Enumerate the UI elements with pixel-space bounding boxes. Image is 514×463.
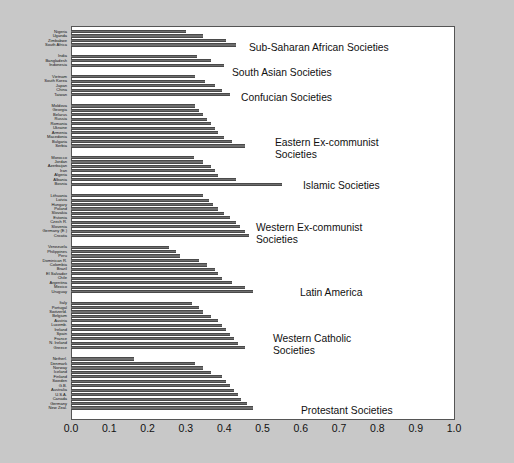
bar [71, 398, 241, 401]
bar [71, 225, 240, 228]
bar [71, 380, 226, 383]
country-labels-layer: NigeriaUgandaZimbabweSouth AfricaIndiaBa… [0, 28, 69, 418]
x-axis-tick-label: 0.5 [255, 422, 270, 434]
bar [71, 30, 186, 33]
bar-row [71, 290, 454, 294]
x-axis-tick-label: 0.7 [332, 422, 347, 434]
bar [71, 371, 211, 374]
bar [71, 290, 253, 293]
bar [71, 118, 207, 121]
country-label: Taiwan [54, 93, 67, 97]
bar [71, 357, 134, 360]
bar [71, 221, 236, 224]
bar [71, 277, 222, 280]
bar [71, 306, 199, 309]
bar [71, 104, 195, 107]
bar [71, 250, 176, 253]
bar [71, 43, 236, 46]
country-label: New Zeal. [49, 406, 67, 410]
group-annotation: Confucian Societies [241, 92, 332, 104]
bar [71, 286, 245, 289]
bar [71, 254, 180, 257]
bar [71, 165, 211, 168]
bar [71, 160, 203, 163]
country-label: Indonesia [49, 63, 67, 67]
bar [71, 93, 230, 96]
bar [71, 234, 249, 237]
country-label: Greece [54, 346, 67, 350]
bar [71, 199, 209, 202]
bar [71, 207, 218, 210]
country-label: Croatia [54, 234, 67, 238]
x-axis-tick-label: 0.8 [370, 422, 385, 434]
bar [71, 183, 282, 186]
bar [71, 346, 245, 349]
bar [71, 178, 236, 181]
bar [71, 259, 199, 262]
bar [71, 156, 194, 159]
bar [71, 131, 218, 134]
x-axis-tick-label: 0.2 [140, 422, 155, 434]
bar-row [71, 183, 454, 187]
bar [71, 122, 211, 125]
bar-row [71, 406, 454, 410]
bar [71, 310, 203, 313]
bar [71, 375, 222, 378]
bar [71, 174, 218, 177]
bar [71, 281, 232, 284]
bar [71, 169, 215, 172]
bar [71, 55, 197, 58]
bar [71, 384, 230, 387]
bar [71, 203, 213, 206]
bar [71, 212, 224, 215]
bar [71, 246, 169, 249]
bar [71, 389, 234, 392]
bar [71, 194, 203, 197]
bar [71, 393, 238, 396]
bar [71, 230, 245, 233]
bar [71, 268, 215, 271]
bar [71, 34, 203, 37]
bar [71, 366, 203, 369]
bar [71, 333, 230, 336]
x-axis-tick-label: 0.6 [293, 422, 308, 434]
country-label: Uruguay [52, 290, 67, 294]
group-annotation: Latin America [300, 287, 362, 299]
group-annotation: Eastern Ex-communist Societies [275, 137, 379, 160]
x-axis-tick-label: 0.3 [179, 422, 194, 434]
bar [71, 402, 247, 405]
bar [71, 272, 218, 275]
bar [71, 319, 218, 322]
country-label: South Africa [45, 43, 67, 47]
bar [71, 136, 224, 139]
bar [71, 342, 238, 345]
group-annotation: South Asian Societies [232, 67, 332, 79]
country-label: Serbia [55, 144, 67, 148]
x-axis-tick-label: 1.0 [447, 422, 462, 434]
bar [71, 127, 215, 130]
x-axis-tick-label: 0.9 [408, 422, 423, 434]
bar [71, 113, 203, 116]
bar [71, 406, 253, 409]
bar [71, 109, 199, 112]
x-axis-tick-label: 0.1 [102, 422, 117, 434]
bar [71, 216, 230, 219]
x-axis-tick-label: 0.0 [64, 422, 79, 434]
x-axis: 0.00.10.20.30.40.50.60.70.80.91.0 [71, 422, 455, 444]
chart-container: NigeriaUgandaZimbabweSouth AfricaIndiaBa… [0, 0, 514, 463]
bar [71, 89, 222, 92]
bar [71, 324, 222, 327]
bar [71, 80, 205, 83]
bar [71, 315, 211, 318]
country-label: Bosnia [54, 182, 67, 186]
bar [71, 328, 226, 331]
bar-row [71, 346, 454, 350]
bar [71, 362, 195, 365]
bar [71, 39, 226, 42]
bar [71, 140, 232, 143]
bar-row [71, 144, 454, 148]
bar [71, 59, 211, 62]
bar [71, 84, 215, 87]
group-annotation: Western Ex-communist Societies [256, 222, 362, 245]
group-annotation: Western Catholic Societies [273, 333, 351, 356]
